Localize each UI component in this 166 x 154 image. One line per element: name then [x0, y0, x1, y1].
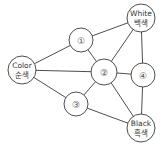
node-2-label: ②	[100, 68, 108, 78]
node-black: Black 흑색	[127, 114, 155, 142]
node-3: ③	[64, 92, 88, 116]
node-color: Color 순색	[8, 56, 36, 84]
node-white-label-en: White	[130, 9, 152, 18]
node-color-label-ko: 순색	[15, 70, 29, 80]
node-1: ①	[69, 28, 93, 52]
node-white-label-ko: 백색	[134, 18, 148, 28]
node-3-label: ③	[72, 100, 80, 110]
node-white: White 백색	[127, 4, 155, 32]
node-4-label: ④	[139, 71, 147, 81]
node-4: ④	[131, 63, 155, 87]
node-1-label: ①	[77, 36, 85, 46]
color-relationship-diagram: White 백색 ① Color 순색 ② ④ ③ Black 흑색	[0, 0, 166, 154]
node-black-label-en: Black	[131, 119, 152, 128]
node-color-label-en: Color	[12, 61, 32, 70]
node-2: ②	[91, 59, 117, 85]
node-black-label-ko: 흑색	[134, 128, 148, 138]
